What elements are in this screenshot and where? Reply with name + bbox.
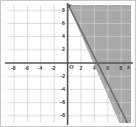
y-axis-name: y xyxy=(68,2,71,8)
x-tick-label: 8 xyxy=(120,66,123,71)
x-tick-label: 4 xyxy=(93,66,96,71)
x-tick-label: 6 xyxy=(106,66,109,71)
x-tick-label: -4 xyxy=(38,66,42,71)
graph-figure: -8 -6 -4 -2 2 4 6 8 8 6 4 2 -2 -4 -6 -8 … xyxy=(0,0,136,127)
y-tick-label: 6 xyxy=(62,21,65,26)
x-tick-label: -6 xyxy=(24,66,28,71)
y-tick-label: 8 xyxy=(62,8,65,13)
y-tick-label: -8 xyxy=(61,113,65,118)
y-tick-label: -4 xyxy=(61,87,65,92)
x-tick-label: -8 xyxy=(11,66,15,71)
y-tick-label: 2 xyxy=(62,47,65,52)
y-tick-label: -6 xyxy=(61,100,65,105)
x-tick-label: -2 xyxy=(51,66,55,71)
origin-label: O xyxy=(69,64,73,70)
y-tick-label: 4 xyxy=(62,34,65,39)
y-tick-label: -2 xyxy=(61,74,65,79)
x-tick-label: 2 xyxy=(79,66,82,71)
x-axis-name: x xyxy=(127,64,130,70)
